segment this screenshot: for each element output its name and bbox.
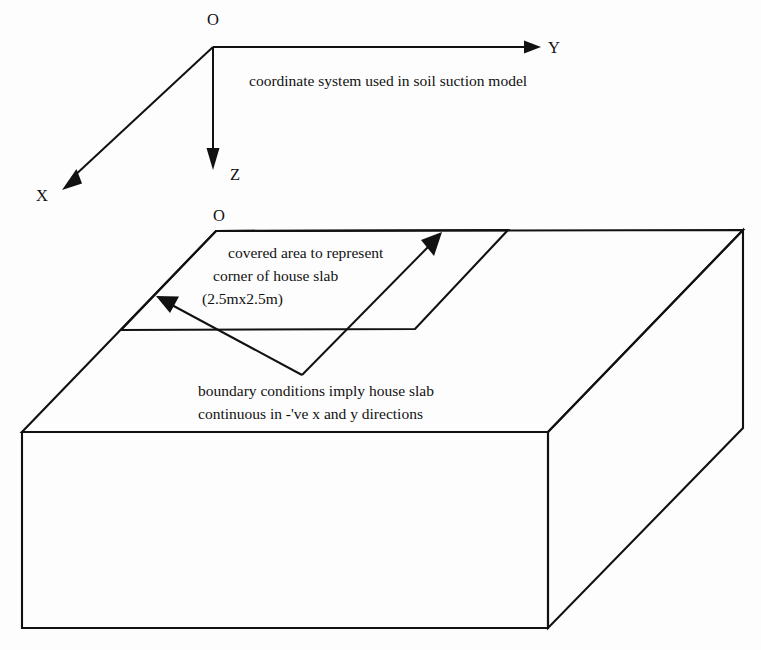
diagram-canvas: O Y Z X coordinate system used in soil s… xyxy=(0,0,761,650)
boundary-note-line-1: boundary conditions imply house slab xyxy=(198,382,434,399)
block-origin-label: O xyxy=(213,206,225,225)
coordinate-origin-label: O xyxy=(207,10,219,29)
boundary-leader-right-line xyxy=(302,246,429,375)
coordinate-axes-group: O Y Z X coordinate system used in soil s… xyxy=(36,10,560,205)
z-axis-label: Z xyxy=(230,165,240,184)
y-axis-label: Y xyxy=(548,38,560,57)
boundary-note-group: boundary conditions imply house slab con… xyxy=(198,382,434,422)
block-right-face xyxy=(548,230,743,628)
boundary-leader-right-arrowhead xyxy=(421,232,442,256)
y-axis-arrowhead xyxy=(524,41,541,54)
block-front-face xyxy=(22,432,548,628)
slab-annotation-line-2: corner of house slab xyxy=(213,267,338,284)
soil-block-group xyxy=(22,230,743,628)
figure-root: O Y Z X coordinate system used in soil s… xyxy=(0,0,761,650)
slab-annotation-line-3: (2.5mx2.5m) xyxy=(202,290,283,308)
boundary-note-line-2: continuous in -'ve x and y directions xyxy=(198,405,423,422)
x-axis-line xyxy=(72,47,213,178)
slab-annotation-group: covered area to represent corner of hous… xyxy=(202,206,384,308)
boundary-leader-left-line xyxy=(170,304,302,375)
coordinate-system-caption: coordinate system used in soil suction m… xyxy=(249,72,527,89)
slab-annotation-line-1: covered area to represent xyxy=(228,244,384,261)
boundary-leader-left-arrowhead xyxy=(156,296,179,313)
z-axis-arrowhead xyxy=(207,148,220,170)
x-axis-label: X xyxy=(36,186,48,205)
